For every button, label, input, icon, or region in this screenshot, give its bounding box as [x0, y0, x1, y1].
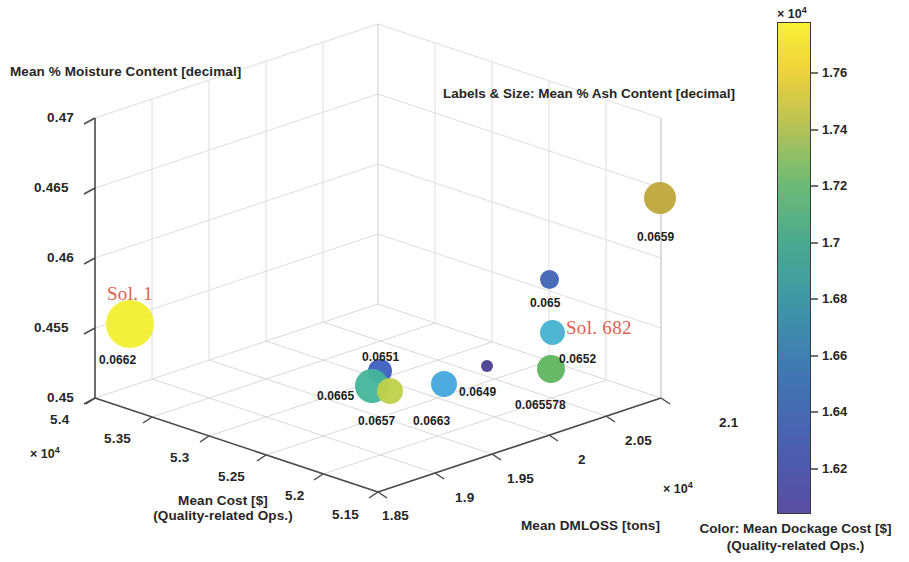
colorbar-tick-5: 1.66 — [822, 348, 847, 363]
colorbar-tick-1: 1.74 — [822, 122, 847, 137]
colorbar-tick-2: 1.72 — [822, 178, 847, 193]
colorbar-tick-3: 1.7 — [822, 235, 840, 250]
colorbar-ticks — [0, 0, 909, 562]
colorbar-tick-4: 1.68 — [822, 291, 847, 306]
colorbar-tick-marks — [811, 73, 818, 469]
colorbar-tick-0: 1.76 — [822, 65, 847, 80]
colorbar-tick-7: 1.62 — [822, 461, 847, 476]
figure-3d-scatter: Mean % Moisture Content [decimal] 0.47 0… — [0, 0, 909, 562]
colorbar-title-line2: (Quality-related Ops.) — [682, 538, 909, 555]
colorbar-title: Color: Mean Dockage Cost [$] (Quality-re… — [682, 521, 909, 555]
colorbar-tick-6: 1.64 — [822, 404, 847, 419]
colorbar-title-line1: Color: Mean Dockage Cost [$] — [682, 521, 909, 538]
